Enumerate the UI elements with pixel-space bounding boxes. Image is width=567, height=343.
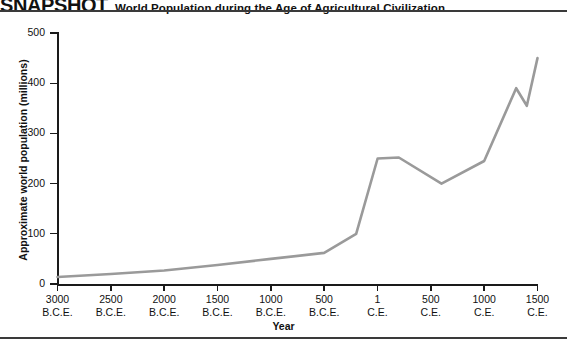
x-axis-title: Year: [0, 320, 567, 332]
snapshot-chart-figure: SNAPSHOTWorld Population during the Age …: [0, 0, 567, 343]
data-line-layer: [0, 14, 567, 336]
footer-divider: [0, 337, 567, 339]
header-divider: [0, 10, 567, 12]
population-line: [58, 58, 538, 277]
figure-title: World Population during the Age of Agric…: [115, 2, 445, 14]
plot-area: Approximate world population (millions) …: [0, 14, 567, 336]
